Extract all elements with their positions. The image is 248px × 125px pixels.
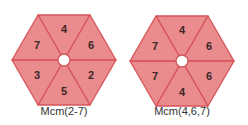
label-bottom: 5 bbox=[61, 85, 67, 97]
label-lower-right: 2 bbox=[88, 69, 94, 81]
caption-left: Mcm(2-7) bbox=[19, 105, 109, 117]
label-lower-left: 3 bbox=[34, 69, 40, 81]
label-top: 4 bbox=[61, 23, 68, 35]
hexamer-mcm2-7: 4 6 2 5 3 7 bbox=[12, 15, 116, 105]
label-bottom: 4 bbox=[179, 86, 186, 98]
central-channel bbox=[58, 54, 70, 66]
label-upper-right: 6 bbox=[206, 40, 212, 52]
label-lower-right: 6 bbox=[206, 70, 212, 82]
caption-right: Mcm(4,6,7) bbox=[137, 105, 227, 117]
label-upper-left: 7 bbox=[152, 40, 158, 52]
label-top: 4 bbox=[179, 24, 186, 36]
hexamer-mcm4-6-7: 4 6 6 4 7 7 bbox=[130, 16, 234, 106]
label-upper-right: 6 bbox=[88, 39, 94, 51]
label-lower-left: 7 bbox=[152, 70, 158, 82]
central-channel bbox=[176, 55, 188, 67]
label-upper-left: 7 bbox=[34, 39, 40, 51]
